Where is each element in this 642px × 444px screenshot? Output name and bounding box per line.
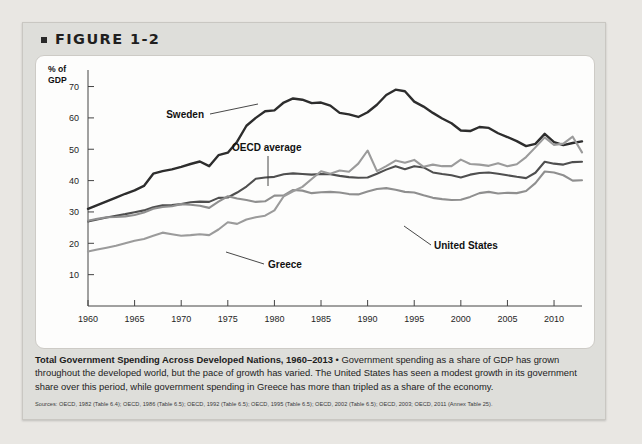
sources-text: Sources: OECD, 1982 (Table 6.4); OECD, 1… [35,400,595,408]
svg-text:1985: 1985 [311,314,331,324]
svg-text:1980: 1980 [264,314,284,324]
series-label-united-states: United States [434,240,498,251]
caption-block: Total Government Spending Across Develop… [35,353,595,408]
caption-title: Total Government Spending Across Develop… [35,354,333,365]
svg-text:60: 60 [69,113,79,123]
svg-text:1960: 1960 [78,314,98,324]
caption-separator: • [333,354,342,365]
figure-card: FIGURE 1-2 10203040506070% ofGDP19601965… [22,22,606,420]
series-label-oecd-average: OECD average [232,142,302,153]
series-label-greece: Greece [268,259,302,270]
svg-text:1995: 1995 [404,314,424,324]
svg-text:1975: 1975 [218,314,238,324]
svg-text:30: 30 [69,207,79,217]
svg-text:20: 20 [69,239,79,249]
svg-text:1970: 1970 [171,314,191,324]
chart-annotations: SwedenOECD averageUnited StatesGreece [166,104,498,270]
svg-text:50: 50 [69,145,79,155]
caption-text: Total Government Spending Across Develop… [35,353,595,393]
chart-panel: 10203040506070% ofGDP1960196519701975198… [35,55,595,349]
svg-text:10: 10 [69,270,79,280]
svg-text:1965: 1965 [125,314,145,324]
svg-text:40: 40 [69,176,79,186]
svg-text:70: 70 [69,82,79,92]
figure-label: FIGURE 1-2 [55,31,160,47]
series-label-sweden: Sweden [166,109,204,120]
svg-text:% of: % of [48,64,66,74]
square-bullet-icon [41,37,47,43]
svg-text:2000: 2000 [451,314,471,324]
svg-text:GDP: GDP [48,75,67,85]
line-chart: 10203040506070% ofGDP1960196519701975198… [36,56,594,348]
figure-header: FIGURE 1-2 [23,23,605,55]
chart-series [88,90,582,252]
svg-text:2005: 2005 [497,314,517,324]
svg-text:2010: 2010 [544,314,564,324]
svg-text:1990: 1990 [358,314,378,324]
